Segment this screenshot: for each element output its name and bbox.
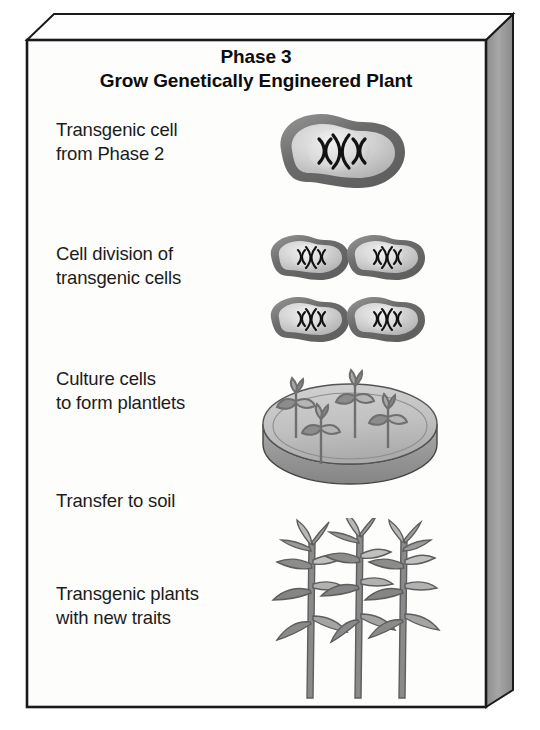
dividing-cell: [347, 297, 425, 342]
title-line-subject: Grow Genetically Engineered Plant: [27, 69, 485, 93]
title-line-phase: Phase 3: [27, 45, 485, 69]
three-mature-plants-icon: [269, 518, 447, 703]
petri-dish-with-plantlets-icon: [255, 360, 445, 488]
dividing-cell: [271, 235, 349, 280]
page-title: Phase 3 Grow Genetically Engineered Plan…: [27, 45, 485, 93]
mature-plant: [365, 520, 439, 698]
frame-right-side: [486, 14, 513, 707]
step-label-cell-division: Cell division of transgenic cells: [56, 242, 181, 290]
four-dividing-cells-icon: [265, 230, 425, 348]
figure-canvas: Phase 3 Grow Genetically Engineered Plan…: [0, 0, 540, 730]
dividing-cell: [347, 235, 425, 280]
step-label-transgenic-cell: Transgenic cell from Phase 2: [56, 118, 177, 166]
step-label-transfer-to-soil: Transfer to soil: [56, 489, 175, 513]
step-label-culture-cells: Culture cells to form plantlets: [56, 367, 185, 415]
dividing-cell: [271, 297, 349, 342]
mature-plant: [273, 520, 347, 698]
single-transgenic-cell-icon: [265, 106, 415, 196]
step-label-transgenic-plants: Transgenic plants with new traits: [56, 582, 199, 630]
mature-plant: [321, 518, 395, 698]
